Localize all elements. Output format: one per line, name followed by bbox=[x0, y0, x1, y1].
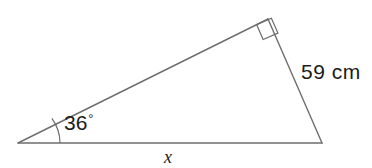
side-length-label: 59 cm bbox=[301, 61, 361, 82]
angle-label: 36° bbox=[64, 112, 94, 133]
triangle-figure-svg bbox=[0, 0, 372, 168]
base-length-label: x bbox=[164, 148, 172, 166]
right-angle-marker-icon bbox=[257, 18, 278, 39]
angle-value: 36 bbox=[64, 111, 87, 134]
degree-symbol-icon: ° bbox=[88, 111, 93, 126]
triangle-diagram: 36° 59 cm x bbox=[0, 0, 372, 168]
